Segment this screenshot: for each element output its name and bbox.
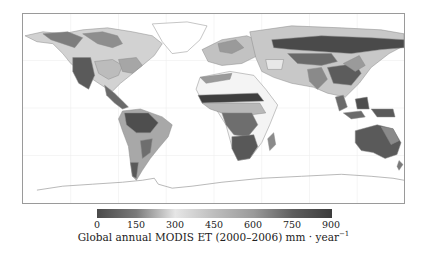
colorbar-tick-900: 900 [322, 219, 340, 230]
south-america [118, 109, 172, 180]
antarctica-coastline [37, 174, 404, 190]
colorbar-tick-0: 0 [94, 219, 100, 230]
colorbar-tick-300: 300 [166, 219, 184, 230]
colorbar-tick-150: 150 [127, 219, 145, 230]
map-canvas [23, 14, 404, 203]
southeast-asia [335, 95, 395, 119]
caption-exponent: −1 [339, 230, 349, 238]
asia [250, 26, 404, 97]
greenland [152, 22, 207, 54]
colorbar-tick-600: 600 [244, 219, 262, 230]
caption-text: Global annual MODIS ET (2000–2006) mm · … [78, 231, 339, 243]
colorbar-tick-750: 750 [283, 219, 301, 230]
australia [355, 125, 401, 159]
new-zealand [397, 160, 403, 170]
africa [196, 71, 278, 160]
colorbar [97, 209, 332, 218]
world-et-map [22, 13, 405, 204]
colorbar-tick-450: 450 [205, 219, 223, 230]
colorbar-caption: Global annual MODIS ET (2000–2006) mm · … [0, 230, 427, 243]
north-america [25, 28, 162, 109]
